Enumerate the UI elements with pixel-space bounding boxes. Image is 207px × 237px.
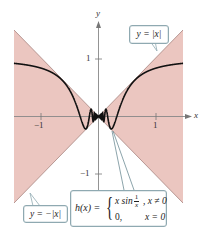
h-case-1-condition: , x ≠ 0 xyxy=(143,196,167,206)
y-tick-label-pos1: 1 xyxy=(86,53,91,63)
h-case-2-condition: x = 0 xyxy=(145,212,165,222)
x-axis-label: x xyxy=(194,110,198,120)
left-brace-icon: { xyxy=(106,192,113,222)
callout-y-equals-neg-abs-x: y = −|x| xyxy=(23,205,68,223)
y-axis-label: y xyxy=(96,8,100,18)
fraction-one-over-x: 1x xyxy=(134,194,140,209)
h-case-2-expression: 0, xyxy=(115,212,122,222)
callout-y-equals-abs-x: y = |x| xyxy=(129,25,169,44)
callout-h-definition: h(x) = { x sin1x , x ≠ 0 0, x = 0 xyxy=(70,190,167,227)
x-tick-label-pos1: 1 xyxy=(153,120,158,130)
x-axis-arrow-icon xyxy=(185,114,192,119)
h-case-1-expression: x sin1x xyxy=(115,194,140,209)
y-tick-label-neg1: −1 xyxy=(80,168,90,178)
x-tick-label-neg1: −1 xyxy=(34,120,44,130)
h-function-name: h(x) = xyxy=(75,202,100,213)
y-axis-arrow-icon xyxy=(96,21,101,28)
